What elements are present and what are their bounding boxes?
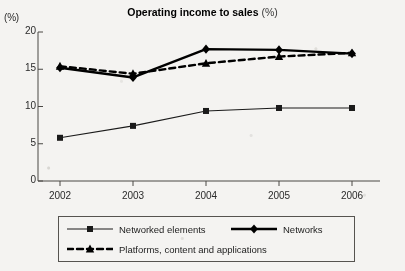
legend-key-networks bbox=[231, 223, 277, 235]
legend-item-platforms[interactable]: Platforms, content and applications bbox=[67, 243, 267, 255]
data-series-group bbox=[56, 45, 356, 141]
legend-item-networked-elements[interactable]: Networked elements bbox=[67, 223, 206, 235]
legend-label-platforms: Platforms, content and applications bbox=[119, 244, 267, 255]
legend-label-networked-elements: Networked elements bbox=[119, 224, 206, 235]
legend-label-networks: Networks bbox=[283, 224, 323, 235]
legend-key-platforms bbox=[67, 243, 113, 255]
legend: Networked elements Networks Platforms, c… bbox=[58, 216, 355, 262]
legend-item-networks[interactable]: Networks bbox=[231, 223, 323, 235]
series-networked-elements bbox=[57, 105, 355, 141]
chart-container: (%) Operating income to sales (%) 051015… bbox=[0, 0, 405, 271]
legend-key-networked-elements bbox=[67, 223, 113, 235]
